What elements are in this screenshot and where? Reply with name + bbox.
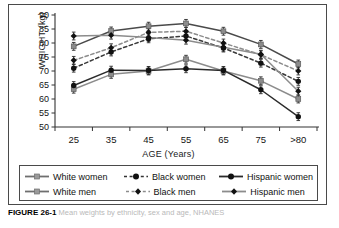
svg-text:65: 65 [39,80,49,90]
legend-label-white-women: White women [53,172,108,182]
y-axis-title: WEIGHT (kg) [37,5,47,75]
svg-text:25: 25 [68,134,79,145]
figure-frame: 505560657075808590253545556575>80 WEIGHT… [8,4,327,205]
legend-key-hispanic-women-icon [218,171,244,182]
legend-item-hispanic-men: Hispanic men [221,186,313,197]
svg-text:35: 35 [106,134,117,145]
legend-label-white-men: White men [53,187,96,197]
legend-item-black-men: Black men [125,186,222,197]
legend-label-hispanic-men: Hispanic men [250,187,305,197]
legend-key-white-men-icon [24,186,50,197]
line-chart: 505560657075808590253545556575>80 [9,5,328,165]
legend-item-hispanic-women: Hispanic women [218,171,313,182]
svg-text:45: 45 [143,134,154,145]
svg-text:55: 55 [181,134,192,145]
figure-root: 505560657075808590253545556575>80 WEIGHT… [0,0,339,228]
legend-row-men: White men Black men Hispanic men [24,184,313,199]
plot-area: 505560657075808590253545556575>80 WEIGHT… [9,5,328,165]
svg-text:55: 55 [39,108,49,118]
svg-text:75: 75 [256,134,267,145]
legend-row-women: White women Black women Hispanic women [24,169,313,184]
x-axis-title: AGE (Years) [9,149,328,159]
legend-label-black-women: Black women [152,172,206,182]
legend-item-white-men: White men [24,186,125,197]
chart-legend: White women Black women Hispanic women [19,165,318,201]
figure-caption-label: FIGURE 26-1 [8,208,56,217]
legend-item-black-women: Black women [123,171,218,182]
figure-caption-text: Mean weights by ethnicity, sex and age, … [59,208,225,217]
legend-label-hispanic-women: Hispanic women [247,172,313,182]
svg-text:60: 60 [39,94,49,104]
figure-caption: FIGURE 26-1 Mean weights by ethnicity, s… [8,208,339,226]
legend-key-hispanic-men-icon [221,186,247,197]
svg-text:>80: >80 [290,134,306,145]
legend-key-white-women-icon [24,171,50,182]
svg-text:50: 50 [39,122,49,132]
legend-label-black-men: Black men [154,187,196,197]
legend-key-black-women-icon [123,171,149,182]
legend-item-white-women: White women [24,171,123,182]
svg-text:65: 65 [218,134,229,145]
legend-key-black-men-icon [125,186,151,197]
